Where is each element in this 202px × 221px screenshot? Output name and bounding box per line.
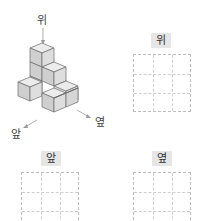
view-label-top: 위 <box>151 33 171 48</box>
view-label-front: 앞 <box>41 151 61 166</box>
direction-label-side: 옆 <box>90 116 110 130</box>
arrow-front-icon <box>22 118 38 130</box>
top-view-grid[interactable] <box>133 54 191 112</box>
view-label-side: 옆 <box>152 151 172 166</box>
side-view-grid[interactable] <box>133 172 191 221</box>
direction-label-top: 위 <box>32 14 52 28</box>
front-view-grid[interactable] <box>21 172 79 221</box>
arrow-side-icon <box>76 108 92 120</box>
direction-label-front: 앞 <box>6 128 26 142</box>
